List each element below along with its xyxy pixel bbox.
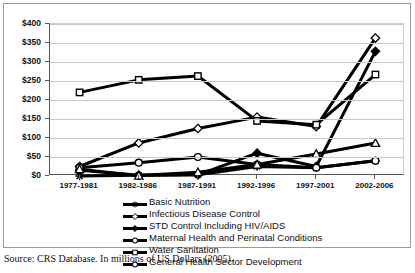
- y-axis-tick-mark: [45, 61, 49, 62]
- x-axis-tick-mark: [315, 175, 316, 179]
- y-axis-tick-label: $0: [32, 171, 41, 180]
- y-axis-tick-mark: [45, 118, 49, 119]
- gridline: [50, 62, 403, 63]
- chart-page: $0$50$100$150$200$250$300$350$400 1977-1…: [0, 0, 415, 273]
- open-square-marker-icon: [195, 73, 201, 79]
- y-axis-tick-mark: [45, 156, 49, 157]
- y-axis-tick-label: $350: [22, 38, 41, 47]
- x-axis-tick-label: 2002-2006: [355, 182, 393, 190]
- y-axis-tick-label: $100: [22, 133, 41, 142]
- filled-diamond-marker-icon: [132, 225, 138, 231]
- y-axis-tick-mark: [45, 23, 49, 24]
- x-axis-tick-mark: [79, 175, 80, 179]
- legend-swatch: [122, 196, 148, 207]
- x-axis-tick-label: 1987-1991: [178, 182, 216, 190]
- plot-area: [49, 23, 404, 175]
- x-axis-tick-label: 1997-2001: [296, 182, 334, 190]
- open-circle-marker-icon: [313, 164, 320, 171]
- gridline: [50, 24, 403, 25]
- series-line: [80, 38, 376, 166]
- open-circle-marker-icon: [133, 238, 138, 243]
- open-diamond-marker-icon: [194, 124, 202, 132]
- x-axis-tick-mark: [197, 175, 198, 179]
- x-axis-tick-label: 1992-1996: [237, 182, 275, 190]
- y-axis-tick-mark: [45, 42, 49, 43]
- gridline: [50, 157, 403, 158]
- open-circle-marker-icon: [372, 157, 379, 164]
- legend-item[interactable]: Infectious Disease Control: [122, 208, 322, 219]
- y-axis-tick-label: $150: [22, 114, 41, 123]
- x-axis-tick-label: 1982-1986: [119, 182, 157, 190]
- open-square-marker-icon: [372, 71, 378, 77]
- legend-label: Infectious Disease Control: [149, 208, 260, 219]
- figure-frame: $0$50$100$150$200$250$300$350$400 1977-1…: [3, 3, 411, 248]
- x-axis-tick-mark: [138, 175, 139, 179]
- asterisk-marker-icon: [132, 201, 138, 207]
- y-axis-tick-label: $300: [22, 57, 41, 66]
- y-axis-tick-mark: [45, 99, 49, 100]
- gridline: [50, 138, 403, 139]
- y-axis-tick-mark: [45, 137, 49, 138]
- y-axis-tick-label: $250: [22, 76, 41, 85]
- x-axis-tick-mark: [374, 175, 375, 179]
- gridline: [50, 43, 403, 44]
- legend-item[interactable]: Basic Nutrition: [122, 196, 322, 207]
- open-square-marker-icon: [76, 89, 82, 95]
- legend-swatch: [122, 208, 148, 219]
- legend-label: STD Control Including HIV/AIDS: [149, 220, 285, 231]
- y-axis-tick-label: $50: [27, 152, 41, 161]
- legend-item[interactable]: STD Control Including HIV/AIDS: [122, 220, 322, 231]
- legend-label: Maternal Health and Perinatal Conditions: [149, 232, 322, 243]
- open-circle-marker-icon: [135, 159, 142, 166]
- legend-item[interactable]: Maternal Health and Perinatal Conditions: [122, 232, 322, 243]
- gridline: [50, 81, 403, 82]
- legend-swatch: [122, 232, 148, 243]
- x-axis-tick-label: 1977-1981: [59, 182, 97, 190]
- gridline: [50, 119, 403, 120]
- y-axis-tick-label: $400: [22, 19, 41, 28]
- y-axis-tick-label: $200: [22, 95, 41, 104]
- open-square-marker-icon: [313, 122, 319, 128]
- open-square-marker-icon: [136, 77, 142, 83]
- gridline: [50, 100, 403, 101]
- open-diamond-marker-icon: [135, 139, 143, 147]
- source-note: Source: CRS Database. In millions of US …: [4, 253, 233, 264]
- legend-swatch: [122, 220, 148, 231]
- open-diamond-marker-icon: [132, 213, 138, 219]
- x-axis-tick-mark: [256, 175, 257, 179]
- y-axis-tick-mark: [45, 175, 49, 176]
- y-axis-tick-mark: [45, 80, 49, 81]
- legend-label: Basic Nutrition: [149, 196, 210, 207]
- series-line: [80, 157, 376, 168]
